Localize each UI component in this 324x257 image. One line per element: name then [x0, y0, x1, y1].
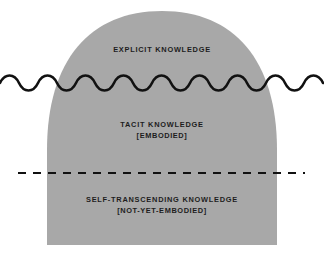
self-transcending-knowledge-secondary-text: [NOT-YET-EMBODIED] [0, 205, 324, 216]
explicit-knowledge-primary-text: EXPLICIT KNOWLEDGE [0, 44, 324, 55]
explicit-knowledge-label: EXPLICIT KNOWLEDGE [0, 44, 324, 55]
tacit-knowledge-secondary-text: [EMBODIED] [0, 130, 324, 141]
self-transcending-knowledge-primary-text: SELF-TRANSCENDING KNOWLEDGE [0, 194, 324, 205]
self-transcending-knowledge-label: SELF-TRANSCENDING KNOWLEDGE [NOT-YET-EMB… [0, 194, 324, 216]
tacit-knowledge-label: TACIT KNOWLEDGE [EMBODIED] [0, 119, 324, 141]
tacit-knowledge-primary-text: TACIT KNOWLEDGE [0, 119, 324, 130]
diagram-canvas: EXPLICIT KNOWLEDGE TACIT KNOWLEDGE [EMBO… [0, 0, 324, 257]
